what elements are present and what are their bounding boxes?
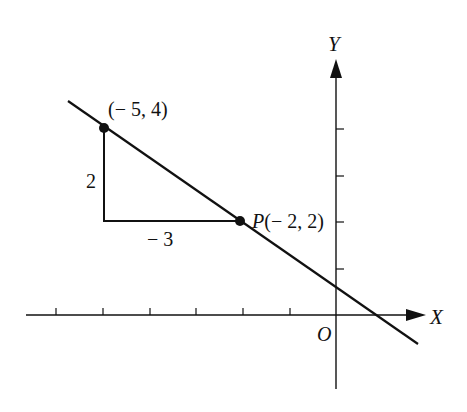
point-p-prefix: P xyxy=(251,210,264,232)
rise-label: 2 xyxy=(86,170,96,192)
x-axis-arrow-icon xyxy=(406,309,426,321)
x-axis-ticks xyxy=(56,308,290,315)
point-p-coords: (− 2, 2) xyxy=(264,210,324,233)
y-axis-arrow-icon xyxy=(330,59,342,78)
point-p-marker xyxy=(235,216,245,226)
point-a-marker xyxy=(99,123,109,133)
run-label: − 3 xyxy=(147,228,173,250)
x-axis-label: X xyxy=(429,305,444,329)
y-axis-ticks xyxy=(336,129,344,269)
origin-label: O xyxy=(317,323,331,345)
point-a-label: (− 5, 4) xyxy=(108,98,168,121)
coordinate-diagram: (− 5, 4) P(− 2, 2) 2 − 3 X Y O xyxy=(0,0,467,412)
y-axis-label: Y xyxy=(328,32,342,56)
point-p-label: P(− 2, 2) xyxy=(251,210,324,233)
